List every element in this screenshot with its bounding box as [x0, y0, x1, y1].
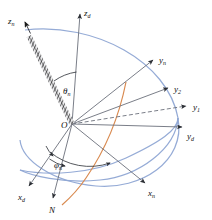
equator-ellipse	[20, 30, 178, 181]
origin-label: O	[61, 120, 68, 130]
phi-angle-label: φn	[54, 160, 62, 171]
node-line-N-label: N	[48, 205, 56, 215]
y-d-axis-label: yd	[186, 131, 195, 142]
phi-arc-marker	[46, 146, 53, 156]
x-d-axis-line	[29, 124, 72, 186]
meridian-arc	[62, 82, 126, 205]
y-2-axis-line	[72, 88, 168, 124]
y-2-axis-label: y2	[173, 84, 181, 95]
y-n-axis-line	[72, 60, 153, 124]
y-1-axis-label: y1	[192, 102, 200, 113]
x-n-axis-label: xn	[147, 188, 155, 199]
x-d-axis-label: xd	[17, 192, 26, 203]
y-n-axis-label: yn	[158, 55, 166, 66]
celestial-sphere-outline	[20, 29, 179, 186]
z-n-axis-label: zn	[7, 16, 15, 27]
theta-angle-label: θn	[63, 86, 70, 97]
z-d-axis-label: zd	[83, 8, 92, 19]
theta-arc	[54, 72, 77, 81]
y-1-axis-line	[72, 106, 186, 124]
y-d-axis-line	[72, 124, 182, 127]
coordinate-frame-figure: zd yd xd y1 y2 yn xn zn N O	[0, 0, 212, 220]
z-d-axis-line	[72, 14, 80, 124]
z-n-axis-boom	[25, 22, 72, 124]
figure-canvas: zd yd xd y1 y2 yn xn zn N O	[0, 0, 212, 220]
